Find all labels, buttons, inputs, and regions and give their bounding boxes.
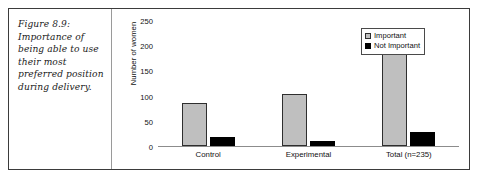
bar-important[interactable] (282, 94, 307, 146)
legend-label: Important (374, 31, 406, 41)
bar-important[interactable] (382, 48, 407, 146)
legend-entry[interactable]: Not Important (365, 41, 420, 51)
legend-swatch-icon (365, 43, 371, 49)
caption-panel: Figure 8.9: Importance of being able to … (9, 9, 112, 169)
chart-legend: ImportantNot Important (361, 28, 425, 55)
figure-frame: Figure 8.9: Importance of being able to … (8, 8, 470, 170)
y-axis-tick: 200 (127, 42, 153, 51)
bar-not-important[interactable] (210, 137, 235, 146)
y-axis-tick: 0 (127, 143, 153, 152)
bar-group (158, 21, 258, 146)
y-axis-tick: 50 (127, 117, 153, 126)
legend-label: Not Important (374, 41, 420, 51)
bar-group (258, 21, 358, 146)
x-axis-category: Total (n=235) (359, 150, 459, 159)
y-axis-tick: 100 (127, 92, 153, 101)
figure-caption: Figure 8.9: Importance of being able to … (18, 18, 104, 94)
y-axis-tick: 150 (127, 67, 153, 76)
x-axis-category: Experimental (258, 150, 358, 159)
legend-swatch-icon (365, 33, 371, 39)
chart-plot-panel: Number of women 050100150200250 ControlE… (113, 9, 469, 169)
y-axis-tick-labels: 050100150200250 (127, 21, 153, 147)
bar-important[interactable] (182, 103, 207, 146)
x-axis-category: Control (158, 150, 258, 159)
y-axis-tick: 250 (127, 17, 153, 26)
x-axis-line (158, 146, 459, 147)
x-axis-category-labels: ControlExperimentalTotal (n=235) (158, 150, 459, 159)
legend-entry[interactable]: Important (365, 31, 420, 41)
bar-not-important[interactable] (410, 132, 435, 146)
